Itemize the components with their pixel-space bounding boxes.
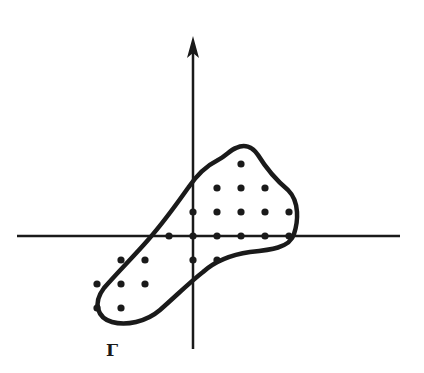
lattice-point xyxy=(285,208,292,215)
lattice-point xyxy=(117,304,124,311)
lattice-point xyxy=(237,208,244,215)
lattice-point xyxy=(261,208,268,215)
lattice-point xyxy=(93,304,100,311)
lattice-point xyxy=(189,208,196,215)
region-label: Γ xyxy=(106,340,118,360)
lattice-point xyxy=(261,232,268,239)
lattice-point xyxy=(117,280,124,287)
lattice-point xyxy=(189,232,196,239)
lattice-point xyxy=(165,232,172,239)
lattice-point xyxy=(93,280,100,287)
lattice-point xyxy=(237,232,244,239)
lattice-point xyxy=(213,208,220,215)
lattice-point xyxy=(189,256,196,263)
lattice-point xyxy=(237,160,244,167)
lattice-point xyxy=(117,256,124,263)
lattice-point xyxy=(237,184,244,191)
lattice-point xyxy=(213,256,220,263)
lattice-point xyxy=(141,280,148,287)
lattice-point xyxy=(261,184,268,191)
lattice-point xyxy=(213,232,220,239)
diagram-canvas xyxy=(0,0,424,373)
lattice-point xyxy=(141,256,148,263)
lattice-point xyxy=(285,232,292,239)
lattice-point xyxy=(213,184,220,191)
